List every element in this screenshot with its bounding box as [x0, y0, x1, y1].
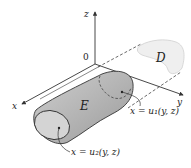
x-axis-label: x: [12, 102, 17, 111]
projection-label-d: D: [156, 52, 166, 64]
projection-line-top: [98, 44, 141, 67]
projection-line-bottom: [128, 72, 181, 108]
z-axis-label: z: [84, 10, 89, 19]
diagram-canvas: [0, 0, 191, 168]
solid-label-e: E: [80, 100, 89, 112]
origin-label: 0: [83, 53, 89, 62]
front-surface-equation: x = u₂(y, z): [71, 148, 120, 157]
back-surface-equation: x = u₁(y, z): [130, 107, 179, 116]
